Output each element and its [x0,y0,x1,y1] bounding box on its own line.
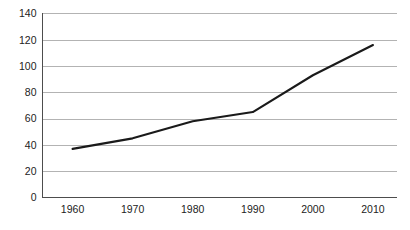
y-tick-label: 0 [31,191,37,203]
y-tick-label: 120 [19,34,37,46]
x-tick-label: 1970 [121,203,145,215]
y-axis-tick-labels: 020406080100120140 [19,7,37,203]
y-tick-label: 20 [25,165,37,177]
x-axis-tick-labels: 196019701980199020002010 [61,203,385,215]
chart-canvas: 020406080100120140 196019701980199020002… [0,0,410,230]
x-tick-label: 1960 [61,203,85,215]
x-tick-label: 2010 [361,203,385,215]
y-tick-label: 40 [25,139,37,151]
line-chart: 020406080100120140 196019701980199020002… [0,0,410,230]
y-tick-label: 80 [25,86,37,98]
y-tick-label: 140 [19,7,37,19]
x-tick-label: 2000 [301,203,325,215]
x-tick-label: 1990 [241,203,265,215]
y-tick-label: 60 [25,112,37,124]
data-series-line [73,45,373,149]
y-tick-label: 100 [19,60,37,72]
x-tick-label: 1980 [181,203,205,215]
